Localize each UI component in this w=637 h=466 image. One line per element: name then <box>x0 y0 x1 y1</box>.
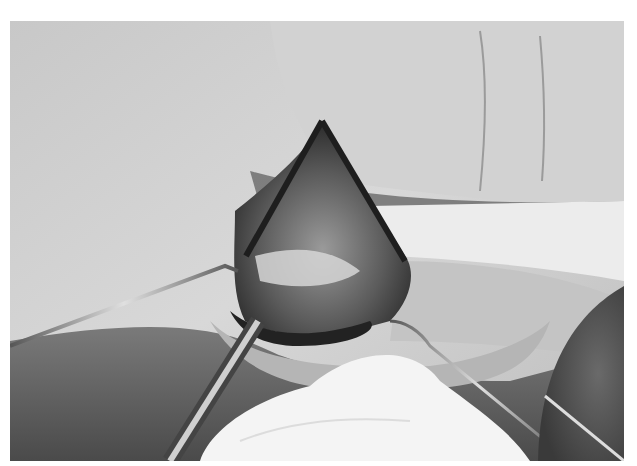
photo-illustration <box>10 21 624 461</box>
surgical-photo <box>10 21 624 461</box>
